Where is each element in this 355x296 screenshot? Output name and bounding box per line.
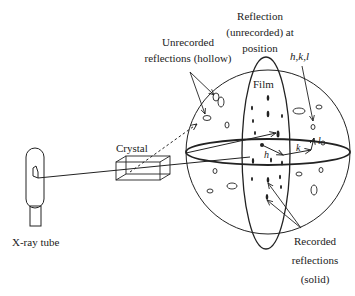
- label-reflection-unrecorded: Reflection (unrecorded) at position: [210, 10, 310, 55]
- label-crystal: Crystal: [116, 142, 148, 155]
- xray-tube-icon: [26, 148, 44, 226]
- incident-beam: [38, 157, 250, 178]
- leader-arrows: [190, 66, 313, 228]
- label-line: (solid): [280, 273, 350, 286]
- label-line: reflections: [280, 254, 350, 267]
- label-recorded-reflections: Recorded reflections (solid): [280, 235, 350, 286]
- label-line: (unrecorded) at: [210, 26, 310, 39]
- label-hkl: h,k,l: [290, 50, 309, 63]
- label-line: Recorded: [280, 235, 350, 248]
- label-axis-k: k: [296, 141, 300, 154]
- unrecorded-reflections: [203, 93, 325, 195]
- label-line: Reflection: [210, 10, 310, 23]
- label-axis-l: l: [318, 134, 321, 147]
- label-axis-h: h: [264, 148, 269, 161]
- label-xray-tube: X-ray tube: [12, 236, 59, 249]
- label-film: Film: [253, 78, 274, 91]
